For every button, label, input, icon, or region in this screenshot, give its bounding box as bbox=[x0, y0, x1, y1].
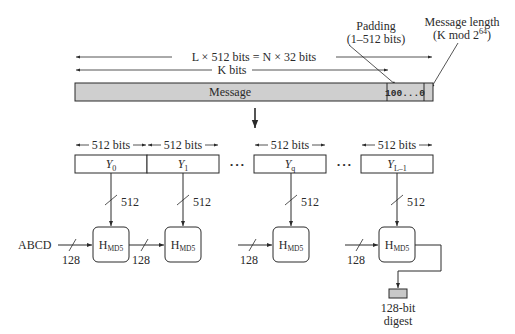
padding-range-label: (1–512 bits) bbox=[347, 32, 405, 46]
ellipsis-2: • • • bbox=[337, 160, 351, 170]
width-512-label: 512 bbox=[301, 195, 319, 209]
width-512-label: 512 bbox=[407, 195, 425, 209]
length-annotation: Message length (K mod 264) bbox=[425, 15, 500, 88]
width-512-label: 512 bbox=[193, 195, 211, 209]
message-bar: Message 100...0 bbox=[75, 83, 433, 101]
block-input-arrows: 512 512 512 512 bbox=[105, 173, 425, 226]
width-512-label: 512 bbox=[121, 195, 139, 209]
iv-abcd-label: ABCD bbox=[18, 238, 52, 252]
block-width-label: 512 bits bbox=[271, 138, 310, 152]
digest-box bbox=[389, 289, 407, 298]
width-128-label: 128 bbox=[347, 253, 365, 267]
md5-diagram: L × 512 bits = N × 32 bits K bits Paddin… bbox=[0, 0, 515, 334]
message-blocks: Y0 Y1 • • • Yq • • • YL–1 bbox=[75, 155, 433, 173]
padding-annotation: Padding (1–512 bits) bbox=[347, 19, 405, 85]
width-128-label: 128 bbox=[240, 253, 258, 267]
total-length-label: L × 512 bits = N × 32 bits bbox=[192, 50, 317, 64]
padding-label: Padding bbox=[356, 19, 395, 33]
padding-content: 100...0 bbox=[385, 88, 425, 99]
digest-label-line1: 128-bit bbox=[381, 301, 416, 315]
total-length-dimension: L × 512 bits = N × 32 bits bbox=[76, 50, 432, 64]
k-bits-label: K bits bbox=[217, 63, 246, 77]
block-width-label: 512 bits bbox=[92, 138, 131, 152]
block-width-labels: 512 bits 512 bits 512 bits 512 bits bbox=[76, 138, 432, 152]
width-128-label: 128 bbox=[132, 253, 150, 267]
length-formula: (K mod 264) bbox=[433, 27, 491, 42]
block-width-label: 512 bits bbox=[378, 138, 417, 152]
block-width-label: 512 bits bbox=[164, 138, 203, 152]
width-128-label: 128 bbox=[62, 253, 80, 267]
digest-label-line2: digest bbox=[384, 314, 413, 328]
k-bits-dimension: K bits bbox=[76, 63, 388, 77]
message-label: Message bbox=[209, 85, 251, 99]
ellipsis-1: • • • bbox=[230, 160, 244, 170]
length-label: Message length bbox=[425, 15, 500, 29]
